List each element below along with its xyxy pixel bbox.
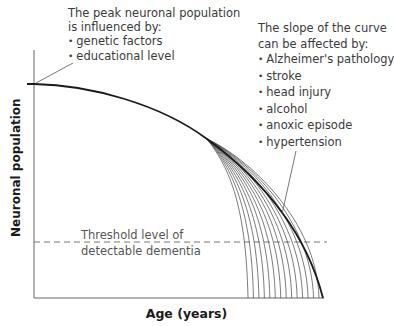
slope-heading-1: The slope of the curve <box>258 21 394 37</box>
peak-item: genetic factors <box>68 34 240 49</box>
branch-curve <box>207 139 297 298</box>
threshold-label: Threshold level of detectable dementia <box>81 227 201 259</box>
branch-curve <box>207 139 270 298</box>
branch-curve <box>207 139 259 298</box>
branch-curve <box>207 139 314 298</box>
slope-annotation: The slope of the curve can be affected b… <box>258 21 394 151</box>
y-axis-label: Neuronal population <box>9 117 23 237</box>
branch-curve <box>207 139 286 298</box>
x-axis-label: Age (years) <box>0 306 373 321</box>
peak-heading-1: The peak neuronal population <box>68 6 240 20</box>
branch-curves <box>207 139 319 298</box>
peak-heading-2: is influenced by: <box>68 20 240 34</box>
slope-item: hypertension <box>258 135 394 152</box>
branch-curve <box>207 139 303 298</box>
peak-item: educational level <box>68 49 240 64</box>
slope-heading-2: can be affected by: <box>258 37 394 53</box>
slope-item: head injury <box>258 85 394 102</box>
peak-leader-line <box>36 63 73 83</box>
slope-item: alcohol <box>258 102 394 119</box>
slope-item: Alzheimer's pathology <box>258 52 394 69</box>
slope-leader-line <box>282 151 296 214</box>
threshold-label-2: detectable dementia <box>81 243 201 259</box>
slope-item: anoxic episode <box>258 118 394 135</box>
peak-annotation: The peak neuronal population is influenc… <box>68 6 240 64</box>
slope-item: stroke <box>258 69 394 86</box>
branch-curve <box>207 139 253 298</box>
threshold-label-1: Threshold level of <box>81 227 201 243</box>
